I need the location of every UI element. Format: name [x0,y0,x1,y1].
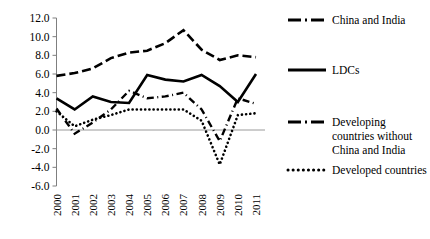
legend-label-2-line3: China and India [332,144,405,156]
line-chart: 12.010.08.06.04.02.00.0-2.0-4.0-6.0 2000… [0,0,430,239]
y-tick-label: 0.0 [35,124,50,136]
y-tick-label: 2.0 [35,105,50,117]
legend-label-2: Developing [332,116,386,129]
x-tick-label: 2007 [177,194,189,217]
y-axis-tick-labels: 12.010.08.06.04.02.00.0-2.0-4.0-6.0 [29,12,49,192]
x-tick-label: 2002 [87,194,99,216]
data-series-group [57,30,257,164]
x-tick-label: 2010 [232,194,244,217]
y-tick-label: -2.0 [31,143,49,155]
legend-label-3: Developed countries [332,164,427,177]
y-tick-label: -4.0 [31,161,49,173]
y-tick-label: 6.0 [35,68,50,80]
y-tick-label: 4.0 [35,87,50,99]
series-line-ldcs [57,74,257,109]
series-line-developing-countries-without-china-and-india [57,91,257,141]
y-tick-label: 10.0 [29,31,49,43]
x-tick-label: 2005 [141,194,153,217]
x-tick-label: 2001 [69,194,81,216]
legend-label-2-line2: countries without [332,130,413,142]
y-axis-ticks [53,18,57,186]
x-tick-label: 2009 [214,194,226,217]
x-tick-label: 2003 [105,194,117,217]
y-tick-label: 12.0 [29,12,49,24]
series-line-china-and-india [57,30,257,76]
legend-label-1: LDCs [332,64,360,76]
x-axis-tick-labels: 2000200120022003200420052006200720082009… [51,194,263,217]
x-tick-label: 2004 [123,194,135,217]
legend-label-0: China and India [332,14,405,26]
x-tick-label: 2011 [250,194,262,216]
y-tick-label: 8.0 [35,49,50,61]
chart-container: 12.010.08.06.04.02.00.0-2.0-4.0-6.0 2000… [0,0,430,239]
chart-legend: China and IndiaLDCsDevelopingcountries w… [288,14,427,177]
x-tick-label: 2008 [196,194,208,217]
x-tick-label: 2006 [159,194,171,217]
x-tick-label: 2000 [51,194,63,217]
y-tick-label: -6.0 [31,180,49,192]
series-line-developed-countries [57,109,257,164]
